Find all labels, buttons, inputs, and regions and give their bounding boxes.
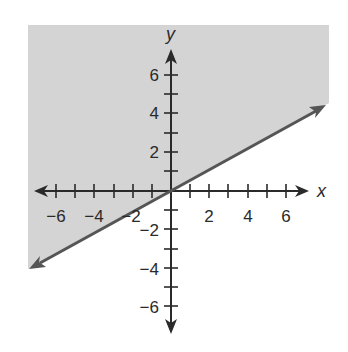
y-axis-label: y [164,24,176,44]
x-tick-label-neg6: −6 [46,207,65,226]
x-tick-label-2: 2 [204,207,213,226]
inequality-graph: x y −6 −4 −2 2 4 6 6 4 2 −2 −4 −6 [0,0,348,352]
y-tick-label-4: 4 [150,104,159,123]
x-tick-label-6: 6 [281,207,290,226]
x-axis-label: x [316,181,327,201]
x-tick-label-neg4: −4 [84,207,103,226]
x-tick-label-4: 4 [243,207,252,226]
y-tick-label-2: 2 [150,143,159,162]
x-tick-label-neg2: −2 [121,207,140,226]
shaded-region [28,25,329,269]
y-tick-label-6: 6 [150,66,159,85]
y-tick-label-neg4: −4 [140,260,159,279]
y-tick-label-neg6: −6 [140,298,159,317]
y-tick-label-neg2: −2 [140,221,159,240]
